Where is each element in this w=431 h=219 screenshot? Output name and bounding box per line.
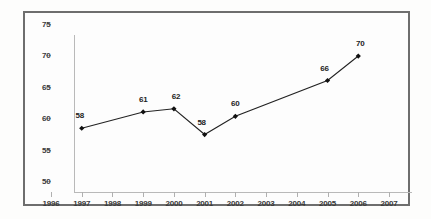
x-axis-tick bbox=[143, 192, 144, 197]
x-axis-tick bbox=[205, 192, 206, 197]
x-axis-tick bbox=[174, 192, 175, 197]
data-point-label: 60 bbox=[231, 99, 240, 108]
x-axis-tick-label: 2002 bbox=[227, 199, 244, 208]
x-axis-tick bbox=[51, 192, 52, 197]
x-axis-tick bbox=[358, 192, 359, 197]
x-axis-tick-label: 2007 bbox=[381, 199, 398, 208]
y-axis-tick-label: 55 bbox=[42, 145, 46, 154]
data-point-label: 61 bbox=[139, 94, 148, 103]
x-axis-tick-label: 1998 bbox=[104, 199, 121, 208]
data-point-label: 58 bbox=[75, 111, 84, 120]
x-axis-tick-label: 2005 bbox=[319, 199, 336, 208]
x-axis-tick bbox=[82, 192, 83, 197]
data-point-marker bbox=[356, 53, 361, 58]
data-point-marker bbox=[171, 106, 176, 111]
x-axis-tick bbox=[389, 192, 390, 197]
data-point-label: 70 bbox=[356, 39, 365, 48]
x-axis-tick-label: 2001 bbox=[196, 199, 213, 208]
x-axis-tick-label: 2004 bbox=[288, 199, 305, 208]
x-axis-tick-label: 1999 bbox=[135, 199, 152, 208]
y-axis-tick-label: 65 bbox=[42, 82, 46, 91]
data-point-marker bbox=[325, 78, 330, 83]
x-axis-tick-label: 1996 bbox=[43, 199, 60, 208]
chart-frame: 505560657075 199619971998199920002001200… bbox=[23, 11, 410, 206]
x-axis-tick bbox=[112, 192, 113, 197]
x-axis-tick bbox=[235, 192, 236, 197]
x-axis-tick bbox=[266, 192, 267, 197]
x-axis-line bbox=[74, 192, 412, 193]
data-point-label: 66 bbox=[320, 63, 329, 72]
x-axis-tick-label: 2006 bbox=[350, 199, 367, 208]
data-point-marker bbox=[202, 132, 207, 137]
y-axis-tick-label: 50 bbox=[42, 177, 46, 186]
data-point-marker bbox=[79, 126, 84, 131]
series-line bbox=[82, 56, 359, 135]
y-axis-tick-label: 70 bbox=[42, 51, 46, 60]
x-axis-tick-label: 1997 bbox=[73, 199, 90, 208]
chart-image: 505560657075 199619971998199920002001200… bbox=[0, 0, 431, 219]
x-axis-tick-label: 2000 bbox=[165, 199, 182, 208]
y-axis-tick-label: 60 bbox=[42, 114, 46, 123]
data-point-marker bbox=[233, 114, 238, 119]
x-axis-tick-label: 2003 bbox=[258, 199, 275, 208]
x-axis-tick bbox=[297, 192, 298, 197]
data-point-marker bbox=[141, 109, 146, 114]
y-axis-tick-label: 75 bbox=[42, 20, 46, 29]
data-point-label: 58 bbox=[197, 117, 206, 126]
data-point-label: 62 bbox=[172, 91, 181, 100]
x-axis-tick bbox=[328, 192, 329, 197]
